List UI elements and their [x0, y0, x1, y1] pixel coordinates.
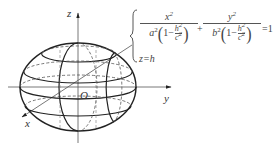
equals-one: =1 [262, 24, 273, 34]
origin-label: O [80, 90, 88, 101]
plus-sign: + [197, 24, 203, 34]
plane-equation: z=h [139, 54, 155, 64]
term1-fraction: x2 a2(1−h2c2) [140, 12, 198, 42]
z-axis-label: z [67, 8, 71, 19]
term2-fraction: y2 b2(1−h2c2) [203, 12, 261, 42]
equation-brace [130, 10, 137, 62]
y-axis-label: y [164, 93, 169, 104]
x-axis-label: x [25, 118, 30, 129]
